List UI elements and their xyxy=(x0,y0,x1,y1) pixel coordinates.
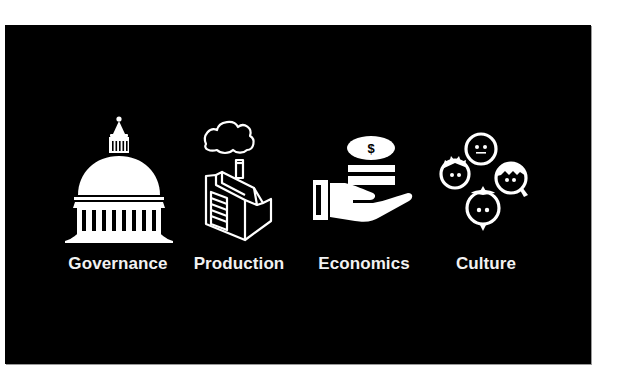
label-production: Production xyxy=(169,253,309,275)
factory-icon xyxy=(195,115,285,243)
capitol-dome-icon xyxy=(63,115,173,243)
money-hand-icon: $ xyxy=(310,125,415,230)
slide-panel: $ G xyxy=(5,25,591,364)
dollar-symbol: $ xyxy=(367,141,375,156)
label-governance: Governance xyxy=(48,253,188,275)
label-economics: Economics xyxy=(294,253,434,275)
label-culture: Culture xyxy=(416,253,556,275)
people-faces-icon xyxy=(430,120,540,240)
